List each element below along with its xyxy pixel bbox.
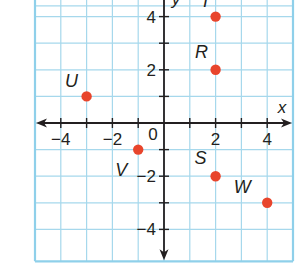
coordinate-plane: −4−2240−4−224xy TRUVSW xyxy=(0,0,305,271)
point-s xyxy=(210,171,220,181)
point-t xyxy=(210,11,220,21)
x-axis-label: x xyxy=(277,98,287,117)
x-tick-label: 2 xyxy=(211,130,220,149)
origin-label: 0 xyxy=(148,125,157,144)
point-label-s: S xyxy=(195,148,207,168)
y-tick-label: −4 xyxy=(137,220,156,239)
y-tick-label: 4 xyxy=(147,8,156,27)
y-tick-label: 2 xyxy=(147,61,156,80)
point-label-u: U xyxy=(65,71,79,91)
y-axis-label: y xyxy=(171,0,182,9)
point-label-w: W xyxy=(234,177,253,197)
point-u xyxy=(81,91,91,101)
axes xyxy=(36,0,292,260)
x-tick-label: −4 xyxy=(51,130,70,149)
point-v xyxy=(133,144,143,154)
point-label-r: R xyxy=(195,42,208,62)
point-label-t: T xyxy=(200,0,213,11)
point-r xyxy=(210,65,220,75)
x-tick-label: 4 xyxy=(262,130,271,149)
x-tick-label: −2 xyxy=(103,130,122,149)
point-w xyxy=(262,198,272,208)
point-label-v: V xyxy=(115,160,129,180)
y-tick-label: −2 xyxy=(137,167,156,186)
